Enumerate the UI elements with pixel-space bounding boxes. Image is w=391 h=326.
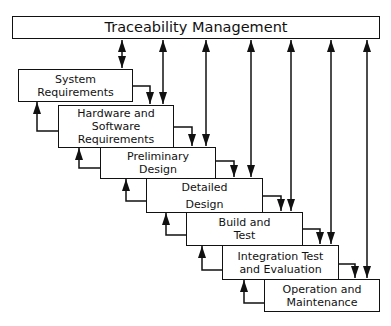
stage-label-line: Integration Test [238,250,324,263]
stage-label-line: System [55,73,96,86]
stage-label-line: Requirements [37,86,113,99]
stage-label-line: Maintenance [287,296,358,309]
traceability-management-box: Traceability Management [12,16,380,39]
stage-operation-maintenance: Operation and Maintenance [264,279,380,312]
stage-label-line: Preliminary [127,150,189,163]
stage-hardware-software-requirements: Hardware and Software Requirements [58,105,174,148]
stage-label-line: Software [92,120,141,133]
stage-build-and-test: Build and Test [186,212,303,246]
stage-integration-test-evaluation: Integration Test and Evaluation [222,245,339,280]
stage-label-line: Design [139,163,177,176]
stage-preliminary-design: Preliminary Design [100,147,216,179]
stage-label-line: Test [234,229,256,242]
stage-label-line: and Evaluation [239,263,321,276]
traceability-management-label: Traceability Management [104,21,287,34]
stage-system-requirements: System Requirements [18,69,133,102]
stage-label-line: Build and [219,216,271,229]
stage-label-line: Operation and [283,283,362,296]
stage-label-line: Detailed [181,181,227,194]
stage-label-line: Requirements [78,133,154,146]
stage-label-line: Hardware and [77,107,154,120]
stage-detailed-design: Detailed Design [146,178,263,213]
stage-label-line: Design [186,198,224,211]
